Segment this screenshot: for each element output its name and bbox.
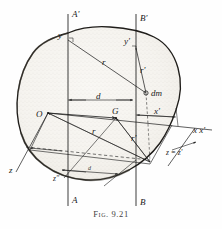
axis-z-equals-zprime — [168, 128, 196, 166]
label-origin: O — [36, 109, 43, 119]
label-z-axis-pair: z = z' — [165, 148, 183, 157]
label-axis-bottom-left: A — [71, 195, 78, 205]
label-y-axis-cm: y' — [123, 36, 131, 46]
label-axis-top-left: A' — [71, 9, 80, 19]
label-x-axis: x x' — [192, 125, 206, 135]
rigid-body-shape — [17, 27, 180, 180]
label-radius-origin-lower: r — [92, 126, 96, 136]
label-radius-origin-upper: r — [102, 57, 106, 67]
label-centroid: G — [112, 106, 119, 116]
label-z-axis-double-prime: z'' — [52, 174, 60, 183]
label-x-offset: x' — [153, 106, 161, 116]
label-y-axis-origin: y — [57, 30, 62, 40]
label-axis-top-right: B' — [140, 13, 148, 23]
figure-caption: Fig. 9.21 — [0, 209, 222, 219]
label-z-axis-left: z — [8, 165, 13, 175]
label-axis-bottom-right: B — [140, 197, 146, 207]
figure-container: A' B' y y' O G d d r r' r r' dm x' x x' … — [0, 0, 222, 229]
figure-drawing: A' B' y y' O G d d r r' r r' dm x' x x' … — [0, 0, 222, 229]
label-mass-element: dm — [151, 88, 163, 98]
label-distance-d: d — [96, 91, 101, 101]
